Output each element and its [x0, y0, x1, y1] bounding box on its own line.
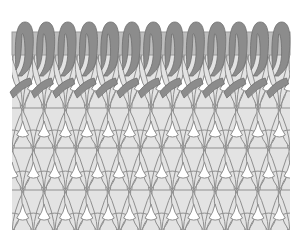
knit-stitch-diagram: [0, 0, 293, 251]
